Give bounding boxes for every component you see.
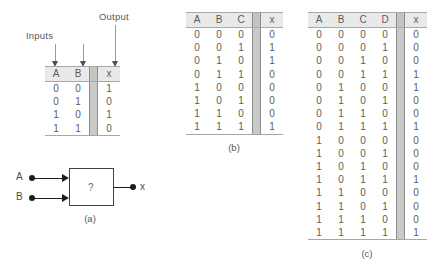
cell-x: 0 bbox=[98, 122, 121, 136]
cell-b: 0 bbox=[67, 108, 90, 121]
cell-b: 0 bbox=[208, 81, 230, 94]
cell-b: 1 bbox=[330, 226, 352, 240]
cell-c: 1 bbox=[230, 120, 253, 134]
table-b-separator-header bbox=[253, 13, 261, 28]
inputs-arrow-a-icon bbox=[55, 44, 56, 62]
cell-a: 1 bbox=[186, 107, 208, 120]
table-row: 0 0 1 0 0 bbox=[308, 54, 427, 67]
table-c-separator-header bbox=[397, 13, 405, 28]
cell-d: 0 bbox=[374, 107, 397, 120]
table-row: 1 0 0 1 0 bbox=[308, 147, 427, 160]
separator-cell bbox=[253, 120, 261, 134]
table-row: 0 0 1 bbox=[45, 82, 120, 96]
cell-b: 0 bbox=[330, 54, 352, 67]
cell-c: 1 bbox=[230, 41, 253, 54]
cell-c: 0 bbox=[352, 28, 374, 42]
separator-cell bbox=[397, 41, 405, 54]
diagram-input-b-label: B bbox=[16, 191, 23, 202]
inputs-arrow-b-icon bbox=[83, 44, 84, 62]
cell-b: 0 bbox=[67, 82, 90, 96]
table-c-header-b: B bbox=[330, 13, 352, 28]
cell-x: 0 bbox=[405, 28, 428, 42]
cell-x: 0 bbox=[261, 94, 284, 107]
cell-x: 0 bbox=[405, 54, 428, 67]
table-row: 1 1 0 0 0 bbox=[308, 186, 427, 199]
cell-x: 0 bbox=[261, 68, 284, 81]
cell-x: 0 bbox=[405, 200, 428, 213]
separator-cell bbox=[397, 54, 405, 67]
cell-b: 1 bbox=[330, 186, 352, 199]
table-row: 0 0 1 1 1 bbox=[308, 68, 427, 81]
cell-x: 1 bbox=[405, 81, 428, 94]
caption-b: (b) bbox=[186, 142, 282, 153]
cell-x: 1 bbox=[98, 108, 121, 121]
cell-a: 0 bbox=[186, 28, 208, 42]
cell-d: 1 bbox=[374, 147, 397, 160]
table-a-body: 0 0 1 0 1 0 1 0 1 1 1 0 bbox=[45, 82, 120, 136]
table-row: 1 1 1 0 0 bbox=[308, 213, 427, 226]
cell-a: 1 bbox=[308, 213, 330, 226]
diagram-input-a-label: A bbox=[16, 171, 23, 182]
cell-d: 1 bbox=[374, 94, 397, 107]
table-row: 1 0 0 0 bbox=[186, 81, 283, 94]
cell-b: 1 bbox=[330, 200, 352, 213]
cell-d: 0 bbox=[374, 81, 397, 94]
output-annotation-label: Output bbox=[99, 11, 129, 22]
cell-a: 0 bbox=[186, 41, 208, 54]
cell-b: 1 bbox=[208, 54, 230, 67]
separator-cell bbox=[397, 186, 405, 199]
cell-a: 1 bbox=[186, 94, 208, 107]
separator-cell bbox=[90, 95, 98, 108]
input-b-arrowhead-icon bbox=[62, 194, 69, 202]
cell-b: 1 bbox=[67, 95, 90, 108]
table-row: 0 1 0 1 0 bbox=[308, 94, 427, 107]
table-b-header-x: x bbox=[261, 13, 284, 28]
table-c-header-x: x bbox=[405, 13, 428, 28]
table-b-header-c: C bbox=[230, 13, 253, 28]
table-c-header-c: C bbox=[352, 13, 374, 28]
cell-a: 0 bbox=[308, 107, 330, 120]
table-a-separator-header bbox=[90, 67, 98, 82]
table-a-header-b: B bbox=[67, 67, 90, 82]
table-row: 1 0 1 bbox=[45, 108, 120, 121]
cell-x: 1 bbox=[261, 120, 284, 134]
cell-x: 1 bbox=[405, 173, 428, 186]
table-b-header-row: A B C x bbox=[186, 13, 283, 28]
table-c-header-row: A B C D x bbox=[308, 13, 427, 28]
input-a-arrowhead-icon bbox=[62, 174, 69, 182]
diagram-output-x-label: x bbox=[140, 181, 145, 192]
output-node-icon bbox=[130, 184, 136, 190]
table-a-header-x: x bbox=[98, 67, 121, 82]
separator-cell bbox=[90, 82, 98, 96]
cell-b: 0 bbox=[330, 134, 352, 147]
cell-c: 1 bbox=[352, 68, 374, 81]
separator-cell bbox=[397, 200, 405, 213]
cell-x: 0 bbox=[405, 41, 428, 54]
inputs-annotation-label: Inputs bbox=[26, 30, 53, 41]
separator-cell bbox=[253, 54, 261, 67]
cell-a: 1 bbox=[308, 186, 330, 199]
cell-d: 1 bbox=[374, 41, 397, 54]
separator-cell bbox=[397, 68, 405, 81]
cell-a: 1 bbox=[45, 122, 67, 136]
table-row: 0 1 0 0 1 bbox=[308, 81, 427, 94]
table-row: 0 0 0 0 0 bbox=[308, 28, 427, 42]
cell-a: 1 bbox=[45, 108, 67, 121]
cell-a: 0 bbox=[45, 82, 67, 96]
cell-a: 0 bbox=[308, 81, 330, 94]
cell-b: 0 bbox=[208, 41, 230, 54]
cell-b: 0 bbox=[330, 160, 352, 173]
cell-d: 0 bbox=[374, 28, 397, 42]
cell-d: 0 bbox=[374, 213, 397, 226]
cell-c: 1 bbox=[352, 107, 374, 120]
cell-x: 1 bbox=[98, 82, 121, 96]
cell-b: 0 bbox=[208, 28, 230, 42]
cell-b: 0 bbox=[330, 173, 352, 186]
separator-cell bbox=[397, 147, 405, 160]
cell-b: 1 bbox=[330, 213, 352, 226]
separator-cell bbox=[90, 122, 98, 136]
input-b-wire bbox=[34, 198, 64, 200]
cell-c: 0 bbox=[230, 54, 253, 67]
cell-c: 1 bbox=[230, 68, 253, 81]
cell-c: 1 bbox=[352, 160, 374, 173]
